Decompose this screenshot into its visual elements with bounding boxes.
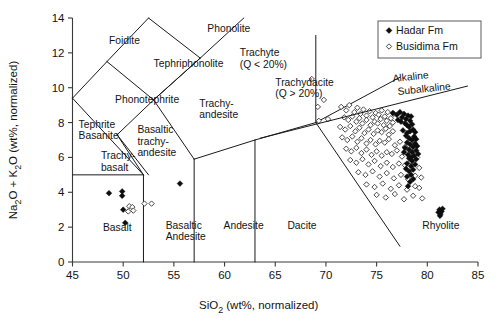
data-point-busidima [368,137,373,142]
field-label-line: Trachyte [240,47,280,58]
field-label-line: Foidite [109,35,140,46]
data-point-busidima [397,139,402,144]
field-label-trachy-: Trachy-basalt [101,150,136,173]
y-axis-title: Na2O + K2O (wt%, normalized) [7,61,23,220]
data-point-busidima [350,134,355,139]
y-tick-label-0: 0 [58,256,64,268]
data-point-busidima [369,152,374,157]
data-point-busidima [344,108,349,113]
data-point-busidima [383,195,388,200]
annotation-subalkaline: Subalkaline [397,80,451,97]
field-label-rhyolite: Rhyolite [422,220,459,231]
field-label-tephriphonolite: Tephriphonolite [154,58,224,69]
field-label-trachy-: Trachy-andesite [199,98,238,121]
data-point-busidima [142,201,147,206]
data-point-busidima [370,169,375,174]
field-label-line: Tephrite [79,119,116,130]
tas-diagram-figure: 45505560657075808502468101214 FoiditePho… [0,0,502,322]
data-point-busidima [364,182,369,187]
data-point-busidima [373,142,378,147]
field-boundary-line [149,18,201,58]
x-title-main: SiO [199,299,218,311]
data-point-busidima [338,104,343,109]
data-point-busidima [388,186,393,191]
y-tick-label-4: 4 [58,186,65,198]
data-point-busidima [366,162,371,167]
x-tick-label-70: 70 [320,269,333,281]
chart-legend: Hadar FmBusidima Fm [378,21,481,58]
field-label-line: (Q > 20%) [275,88,322,99]
data-point-busidima [348,123,353,128]
data-point-busidima [372,158,377,163]
field-label-basaltic: BasalticAndesite [166,220,206,243]
y-axis-title-text: Na2O + K2O (wt%, normalized) [7,61,23,220]
field-label-basalt: Basalt [103,222,132,233]
data-point-busidima [374,192,379,197]
data-point-busidima [363,172,368,177]
field-label-line: Trachy- [101,150,136,161]
data-point-busidima [392,143,397,148]
data-point-busidima [386,136,391,141]
data-point-busidima [392,191,397,196]
x-tick-label-60: 60 [218,269,231,281]
data-point-busidima [390,129,395,134]
data-point-busidima [364,141,369,146]
field-label-foidite: Foidite [109,35,140,46]
y-tick-label-14: 14 [52,12,65,24]
data-point-busidima [371,131,376,136]
data-point-busidima [345,137,350,142]
field-label-line: Phonolite [207,23,250,34]
data-point-busidima [349,149,354,154]
data-point-busidima [378,163,383,168]
field-label-line: Basaltic [137,124,173,135]
x-axis-title: SiO2 (wt%, normalized) [199,299,318,315]
data-point-busidima [354,145,359,150]
data-point-busidima [344,146,349,151]
data-point-busidima [396,161,401,166]
data-point-busidima [149,201,154,206]
tas-scatter-chart: 45505560657075808502468101214 FoiditePho… [0,0,502,322]
x-tick-label-75: 75 [370,269,383,281]
y-title-c: O (wt%, normalized) [7,61,19,165]
data-point-busidima [342,127,347,132]
legend-label-hadar-fm: Hadar Fm [396,24,443,36]
data-point-busidima [417,165,422,170]
data-point-busidima [394,148,399,153]
data-point-busidima [355,105,360,110]
annotation-alkaline: Alkaline [392,69,429,84]
data-point-busidima [384,160,389,165]
data-point-busidima [339,135,344,140]
field-label-trachyte: Trachyte(Q < 20%) [240,47,287,70]
field-label-andesite: Andesite [224,220,264,231]
field-label-dacite: Dacite [287,220,316,231]
field-label-line: Trachydacite [275,77,334,88]
field-label-line: Tephriphonolite [154,58,224,69]
data-point-busidima [359,136,364,141]
data-point-busidima [390,164,395,169]
field-label-line: Trachy- [199,98,234,109]
field-label-line: Phonotephrite [115,94,179,105]
x-title-rest: (wt%, normalized) [223,299,318,311]
field-label-line: basalt [101,162,129,173]
field-label-line: trachy- [137,136,168,147]
data-point-busidima [377,174,382,179]
y-title-a: Na [7,204,19,219]
y-tick-label-8: 8 [58,117,64,129]
x-tick-label-65: 65 [269,269,282,281]
field-label-line: Rhyolite [422,220,459,231]
data-point-busidima [385,109,390,114]
y-title-b: O + K [7,170,19,200]
field-label-phonotephrite: Phonotephrite [115,94,179,105]
field-boundary-line [73,62,107,99]
data-point-busidima [391,176,396,181]
field-label-line: andesite [199,109,238,120]
data-point-busidima [401,197,406,202]
data-point-busidima [374,149,379,154]
y-tick-label-12: 12 [52,47,65,59]
x-tick-label-50: 50 [117,269,130,281]
data-point-busidima [364,117,369,122]
data-point-busidima [377,138,382,143]
field-label-line: Andesite [166,231,206,242]
data-point-busidima [382,140,387,145]
legend-label-busidima-fm: Busidima Fm [396,40,458,52]
